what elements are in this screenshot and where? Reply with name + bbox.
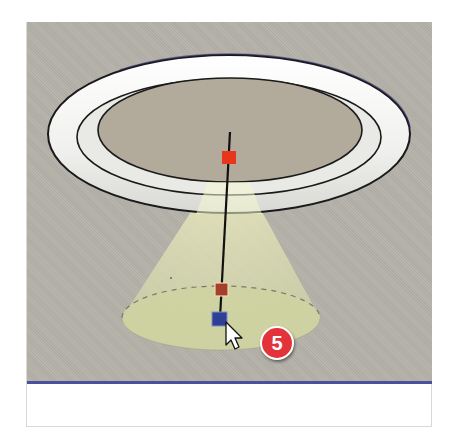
cone-angle-handle[interactable]: [215, 283, 228, 296]
step-callout-badge: 5: [260, 326, 294, 360]
light-source-handle[interactable]: [222, 151, 236, 164]
fixture-disc: [98, 78, 362, 182]
scene-canvas[interactable]: [0, 0, 451, 437]
target-handle[interactable]: [212, 312, 227, 326]
